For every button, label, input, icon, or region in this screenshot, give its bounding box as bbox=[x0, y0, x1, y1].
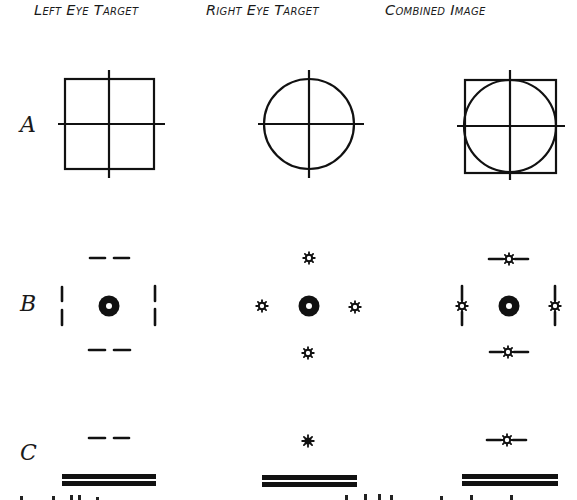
cropped-caption-fragments bbox=[20, 494, 513, 500]
stereo-target-figure bbox=[0, 0, 577, 500]
row-b-left-center-dot bbox=[99, 296, 120, 317]
row-c-right-star bbox=[302, 435, 314, 447]
row-a-combined-image bbox=[457, 70, 565, 180]
row-a-right-circle-cross bbox=[258, 70, 364, 178]
row-b-right-center-dot bbox=[299, 296, 320, 317]
row-c-double-bars bbox=[62, 474, 558, 487]
row-a-left-square-cross bbox=[58, 70, 165, 178]
row-c-combined-dashes-star bbox=[487, 434, 526, 446]
row-b-combined-center-dot bbox=[499, 296, 520, 317]
